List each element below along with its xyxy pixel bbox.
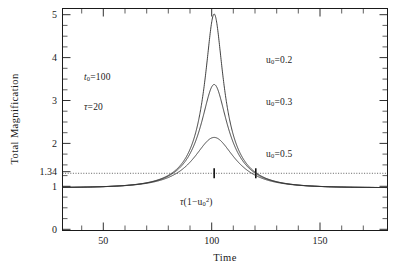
- curve-group: [63, 14, 388, 187]
- x-tick-label: 100: [204, 235, 219, 246]
- y-tick-label-134: 1.34: [40, 166, 58, 177]
- x-tick-labels: 50 100 150: [98, 235, 327, 246]
- u-value: =0.2: [274, 55, 292, 65]
- chart-figure: 0 1 1.34 2 3 4 5 50 100 150 Time Total M…: [0, 0, 403, 279]
- u-value: =0.3: [274, 97, 292, 107]
- tau-value: =20: [88, 102, 103, 112]
- plot-frame: [63, 9, 388, 231]
- y-axis-title: Total Magnification: [9, 73, 20, 164]
- t0-value: =100: [90, 72, 110, 82]
- x-tick-label: 150: [313, 235, 328, 246]
- curve-u0=0.3: [63, 84, 388, 187]
- curve-u0=0.2: [63, 14, 388, 187]
- x-axis-ticks: [82, 9, 364, 231]
- magnification-plot: 0 1 1.34 2 3 4 5 50 100 150 Time Total M…: [0, 0, 403, 279]
- y-tick-label: 2: [52, 138, 57, 149]
- series-label-u0-0.3: u0=0.3: [266, 97, 292, 107]
- y-tick-label: 1: [52, 181, 57, 192]
- parameter-t0-annotation: t0=100: [84, 72, 111, 82]
- duration-open: (1−u: [184, 197, 203, 207]
- y-tick-label: 4: [52, 52, 57, 63]
- x-tick-label: 50: [98, 235, 108, 246]
- parameter-tau-annotation: τ=20: [84, 102, 103, 112]
- u-value: =0.5: [274, 149, 292, 159]
- y-tick-label: 5: [52, 9, 57, 20]
- y-axis-ticks: [63, 15, 388, 230]
- y-tick-label: 0: [52, 224, 57, 235]
- x-axis-title: Time: [213, 252, 236, 263]
- y-tick-labels: 0 1 1.34 2 3 4 5: [40, 9, 58, 235]
- series-label-u0-0.2: u0=0.2: [266, 55, 292, 65]
- curve-u0=0.5: [63, 137, 388, 187]
- series-label-u0-0.5: u0=0.5: [266, 149, 292, 159]
- y-tick-label: 3: [52, 95, 57, 106]
- duration-annotation: τ(1−u02): [180, 196, 213, 207]
- duration-close: ): [209, 197, 212, 207]
